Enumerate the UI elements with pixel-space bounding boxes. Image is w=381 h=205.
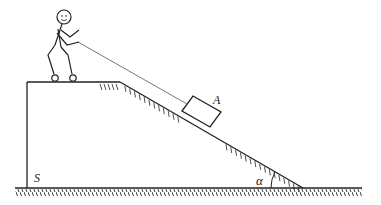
platform-label: S bbox=[34, 171, 40, 185]
platform bbox=[27, 82, 120, 188]
person bbox=[48, 10, 79, 81]
angle-label: α bbox=[256, 173, 264, 188]
incline-diagram: α S A bbox=[0, 0, 381, 205]
block-label: A bbox=[212, 93, 221, 107]
incline bbox=[120, 82, 303, 192]
rope bbox=[78, 42, 187, 104]
ground bbox=[15, 188, 362, 196]
angle-marker: α bbox=[256, 172, 275, 188]
